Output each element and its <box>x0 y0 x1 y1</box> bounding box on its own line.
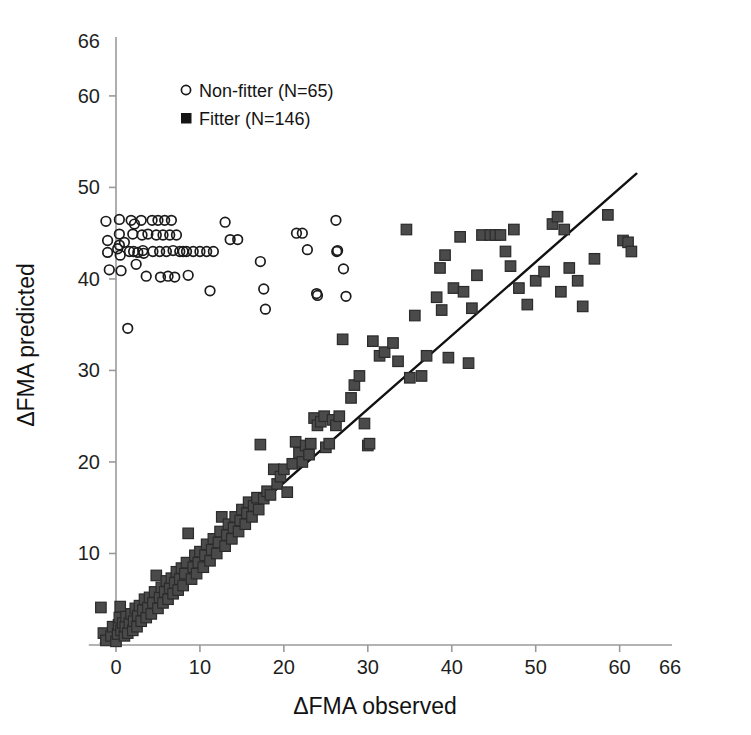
data-point-non-fitter <box>170 272 180 282</box>
data-point-non-fitter <box>103 236 113 246</box>
data-point-fitter <box>539 266 550 277</box>
data-point-fitter <box>401 224 412 235</box>
data-point-fitter <box>388 338 399 349</box>
data-point-fitter <box>455 232 466 243</box>
legend-label-non-fitter: Non-fitter (N=65) <box>199 81 334 101</box>
data-point-non-fitter <box>303 245 313 255</box>
data-point-fitter <box>405 373 416 384</box>
y-tick-label: 60 <box>78 85 100 107</box>
data-point-non-fitter <box>128 229 138 239</box>
data-point-fitter <box>505 261 516 272</box>
data-point-fitter <box>290 437 301 448</box>
y-tick-label: 66 <box>78 30 100 52</box>
data-point-fitter <box>564 263 575 274</box>
y-tick-label: 20 <box>78 451 100 473</box>
data-point-fitter <box>463 358 474 369</box>
series-fitter-points <box>96 210 637 647</box>
data-point-fitter <box>626 246 637 257</box>
data-point-non-fitter <box>339 264 349 274</box>
data-point-non-fitter <box>205 286 215 296</box>
data-point-non-fitter <box>131 259 141 269</box>
x-axis-title: ΔFMA observed <box>293 693 457 719</box>
data-point-fitter <box>183 528 194 539</box>
y-tick-label: 10 <box>78 542 100 564</box>
data-point-non-fitter <box>101 216 111 226</box>
data-point-fitter <box>305 438 316 449</box>
data-point-fitter <box>467 303 478 314</box>
data-point-fitter <box>572 276 583 287</box>
scatter-plot-figure: 010203040506066 10203040506066 Non-fitte… <box>0 0 751 735</box>
data-point-non-fitter <box>183 270 193 280</box>
data-point-fitter <box>393 356 404 367</box>
y-axis-ticks: 10203040506066 <box>78 30 116 564</box>
data-point-fitter <box>509 224 520 235</box>
data-point-fitter <box>359 418 370 429</box>
data-point-fitter <box>346 393 357 404</box>
data-point-fitter <box>435 263 446 274</box>
x-tick-label: 20 <box>273 656 295 678</box>
data-point-non-fitter <box>261 304 271 314</box>
data-point-non-fitter <box>331 216 341 226</box>
axes-group <box>89 37 672 645</box>
x-tick-label: 50 <box>525 656 547 678</box>
x-tick-label: 40 <box>441 656 463 678</box>
data-point-non-fitter <box>141 271 151 281</box>
data-point-fitter <box>265 490 276 501</box>
data-point-fitter <box>577 301 588 312</box>
data-point-fitter <box>324 438 335 449</box>
data-point-fitter <box>354 371 365 382</box>
plot-canvas: 010203040506066 10203040506066 Non-fitte… <box>0 0 751 735</box>
data-point-fitter <box>603 210 614 221</box>
x-tick-label: 30 <box>357 656 379 678</box>
data-point-fitter <box>96 602 107 613</box>
data-point-fitter <box>431 292 442 303</box>
data-point-fitter <box>151 570 162 581</box>
data-point-fitter <box>559 224 570 235</box>
data-point-fitter <box>443 352 454 363</box>
data-point-fitter <box>436 305 447 316</box>
data-point-fitter <box>364 438 375 449</box>
data-point-non-fitter <box>172 230 182 240</box>
data-point-non-fitter <box>341 292 351 302</box>
x-tick-label: 10 <box>189 656 211 678</box>
data-point-fitter <box>440 250 451 260</box>
data-point-non-fitter <box>123 324 133 334</box>
legend: Non-fitter (N=65) Fitter (N=146) <box>181 81 334 129</box>
data-point-fitter <box>556 287 567 298</box>
legend-open-circle-icon <box>181 85 190 94</box>
data-point-fitter <box>458 287 469 298</box>
data-point-fitter <box>448 283 459 294</box>
data-point-fitter <box>337 334 348 345</box>
y-axis-title: ΔFMA predicted <box>13 263 39 427</box>
data-point-fitter <box>115 601 126 612</box>
legend-label-fitter: Fitter (N=146) <box>199 109 311 129</box>
data-point-non-fitter <box>298 228 308 238</box>
data-point-fitter <box>552 211 563 222</box>
data-point-fitter <box>495 230 506 241</box>
x-tick-label: 66 <box>659 656 681 678</box>
data-point-non-fitter <box>116 266 126 276</box>
data-point-fitter <box>255 439 266 450</box>
data-point-fitter <box>416 371 427 382</box>
data-point-fitter <box>304 449 315 460</box>
x-axis-ticks: 010203040506066 <box>110 645 681 678</box>
data-point-fitter <box>287 459 298 470</box>
data-point-fitter <box>472 270 483 281</box>
data-point-fitter <box>522 299 533 310</box>
y-tick-label: 40 <box>78 268 100 290</box>
x-tick-label: 60 <box>609 656 631 678</box>
data-point-fitter <box>334 411 345 422</box>
data-point-fitter <box>514 283 525 294</box>
data-point-non-fitter <box>103 248 113 258</box>
data-point-non-fitter <box>104 265 114 275</box>
series-non-fitter-points <box>101 215 351 334</box>
data-point-fitter <box>410 310 421 321</box>
legend-filled-square-icon <box>181 113 192 124</box>
x-tick-label: 0 <box>110 656 121 678</box>
y-tick-label: 50 <box>78 176 100 198</box>
data-point-non-fitter <box>259 284 269 294</box>
data-point-non-fitter <box>209 247 219 257</box>
data-point-fitter <box>253 504 263 515</box>
data-point-non-fitter <box>220 217 230 227</box>
y-tick-label: 30 <box>78 359 100 381</box>
